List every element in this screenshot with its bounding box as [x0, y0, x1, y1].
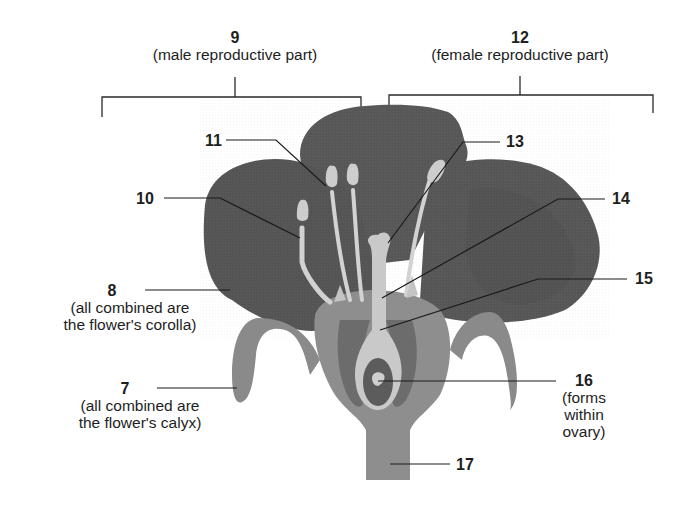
- label-8-note-line2: the flower's corolla): [38, 316, 222, 333]
- label-7-calyx: 7 (all combined are the flower's calyx): [52, 380, 228, 431]
- label-8-number: 8: [2, 282, 222, 299]
- label-17: 17: [456, 456, 474, 473]
- label-12-note: (female reproductive part): [402, 46, 638, 63]
- label-16-note-line3: ovary): [544, 423, 624, 440]
- label-11: 11: [205, 132, 222, 149]
- label-14: 14: [612, 190, 630, 207]
- label-12-female-reproductive-part: 12 (female reproductive part): [402, 29, 638, 63]
- label-8-note-line1: (all combined are: [38, 299, 222, 316]
- label-9-male-reproductive-part: 9 (male reproductive part): [132, 29, 338, 63]
- label-8-corolla: 8 (all combined are the flower's corolla…: [38, 282, 222, 333]
- label-7-number: 7: [22, 380, 228, 397]
- label-10: 10: [136, 190, 154, 207]
- label-9-number: 9: [132, 29, 338, 46]
- label-9-note: (male reproductive part): [132, 46, 338, 63]
- label-15: 15: [635, 270, 653, 287]
- label-16-note-line2: within: [544, 406, 624, 423]
- label-7-note-line1: (all combined are: [52, 397, 228, 414]
- label-13: 13: [506, 133, 524, 150]
- label-16-ovule: 16 (forms within ovary): [544, 372, 624, 440]
- label-16-note-line1: (forms: [544, 389, 624, 406]
- label-7-note-line2: the flower's calyx): [52, 414, 228, 431]
- label-12-number: 12: [402, 29, 638, 46]
- label-16-number: 16: [544, 372, 624, 389]
